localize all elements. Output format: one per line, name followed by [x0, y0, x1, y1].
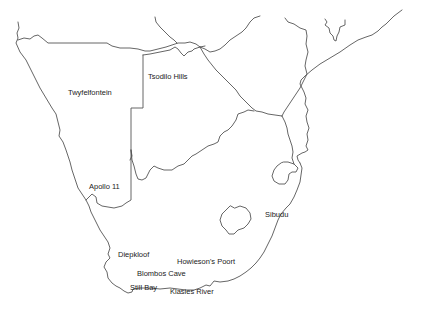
- border-botswana-zimbabwe: [200, 47, 282, 116]
- site-label-sibudu: Sibudu: [265, 211, 288, 219]
- site-label-apollo-11: Apollo 11: [89, 183, 120, 191]
- site-label-still-bay: Still Bay: [130, 284, 157, 292]
- site-label-tsodilo-hills: Tsodilo Hills: [148, 73, 188, 81]
- coastline-mozambique: [297, 10, 402, 163]
- site-label-diepkloof: Diepkloof: [118, 251, 149, 259]
- border-south-africa-mozambique: [282, 116, 294, 164]
- site-label-blombos-cave: Blombos Cave: [137, 270, 186, 278]
- border-zimbabwe-mozambique: [282, 18, 308, 116]
- site-label-klasies-river: Klasies River: [170, 288, 214, 296]
- border-caprivi: [143, 47, 200, 56]
- site-label-twyfelfontein: Twyfelfontein: [68, 89, 112, 97]
- swaziland: [272, 162, 298, 184]
- border-angola-zambia: [155, 17, 177, 43]
- coastline: [16, 22, 302, 293]
- lake-malawi: [325, 19, 345, 41]
- border-namibia-botswana: [130, 55, 143, 160]
- border-namibia-south-africa: [86, 150, 131, 208]
- border-botswana-south-africa: [131, 110, 254, 180]
- border-zambia-zimbabwe: [200, 16, 260, 52]
- lesotho: [220, 206, 251, 234]
- site-label-howiesons-poort: Howieson's Poort: [177, 258, 235, 266]
